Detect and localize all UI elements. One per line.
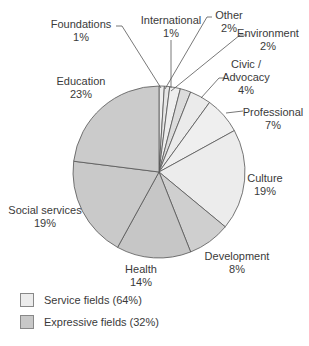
slice-label: Culture19% xyxy=(247,172,282,198)
slice-label: Environment2% xyxy=(237,27,299,53)
slice-label: Health14% xyxy=(125,263,157,289)
leader-line xyxy=(226,111,243,113)
slice-label: Development8% xyxy=(205,250,270,276)
legend-swatch-service xyxy=(20,293,34,307)
slice-label: Education23% xyxy=(57,75,106,101)
legend-label-expressive: Expressive fields (32%) xyxy=(44,316,159,328)
slice-label: Professional7% xyxy=(243,106,304,132)
legend-item-expressive: Expressive fields (32%) xyxy=(20,315,159,329)
legend-item-service: Service fields (64%) xyxy=(20,293,142,307)
legend-label-service: Service fields (64%) xyxy=(44,294,142,306)
slice-label: International1% xyxy=(141,14,202,40)
slice-label: Social services19% xyxy=(8,204,81,230)
slice-label: Foundations1% xyxy=(51,18,112,44)
slice-label: Civic /Advocacy4% xyxy=(222,58,270,97)
legend-swatch-expressive xyxy=(20,315,34,329)
